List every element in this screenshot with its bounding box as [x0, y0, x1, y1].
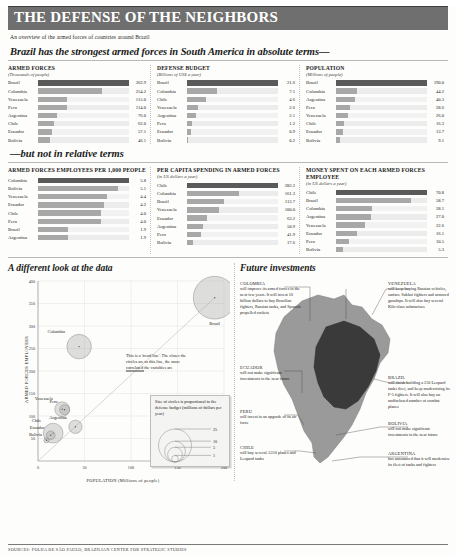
bar-category-label: Chile: [157, 97, 187, 102]
callout-peru: PERU will invest in an upgrade of its ai…: [240, 409, 302, 426]
bars-container: Brazil362.9Colombia254.2Venezuela115.0Pe…: [8, 79, 146, 145]
bar-track: [187, 137, 278, 142]
bar-fill: [336, 88, 357, 93]
x-tick-label: 50: [82, 465, 86, 470]
bar-value-label: 2.6: [278, 105, 295, 110]
bar-fill: [187, 183, 278, 188]
bars-container: Brazil21.6Colombia7.1Chile4.6Venezuela2.…: [157, 79, 295, 145]
bubble-size-legend: Size of circles is proportional to the d…: [150, 395, 230, 467]
bar-fill: [187, 137, 188, 142]
bar-category-label: Colombia: [8, 89, 38, 94]
scatter-point-center: [214, 297, 215, 298]
bar-row: Ecuador4.2: [8, 201, 146, 209]
bar-row: Argentina27.0: [306, 213, 444, 221]
bar-row: Venezuela2.6: [157, 103, 295, 111]
bar-track: [336, 247, 427, 252]
bar-value-label: 2.1: [278, 113, 295, 118]
bar-category-label: Chile: [306, 190, 336, 195]
bar-track: [187, 97, 278, 102]
lower-section: A different look at the data 50100150200…: [8, 263, 448, 481]
bar-row: Peru4.0: [8, 217, 146, 225]
bar-category-label: Chile: [8, 121, 38, 126]
bar-track: [38, 121, 129, 126]
bar-value-label: 62.0: [129, 121, 146, 126]
bar-track: [38, 137, 129, 142]
bar-fill: [336, 113, 348, 118]
bar-track: [38, 186, 129, 191]
bar-track: [336, 97, 427, 102]
bar-row: Ecuador57.1: [8, 128, 146, 136]
bar-track: [336, 80, 427, 85]
bar-row: Colombia254.2: [8, 87, 146, 95]
bar-category-label: Argentina: [157, 224, 187, 229]
bar-fill: [38, 88, 102, 93]
bar-category-label: Ecuador: [8, 129, 38, 134]
bar-value-label: 4.0: [129, 219, 146, 224]
bar-fill: [336, 105, 350, 110]
bar-track: [336, 88, 427, 93]
bar-row: Ecuador0.9: [157, 128, 295, 136]
bar-fill: [38, 219, 101, 224]
chart-title: ARMED FORCES EMPLOYEES PER 1,000 PEOPLE: [8, 167, 146, 174]
bar-value-label: 114.0: [129, 105, 146, 110]
bar-row: Argentina50.9: [157, 222, 295, 230]
bar-value-label: 26.0: [427, 113, 444, 118]
bar-value-label: 50.9: [278, 224, 295, 229]
bar-value-label: 40.3: [427, 97, 444, 102]
bar-fill: [187, 121, 192, 126]
bar-category-label: Peru: [8, 219, 38, 224]
bar-category-label: Bolivia: [8, 138, 38, 143]
bar-value-label: 16.1: [427, 231, 444, 236]
bar-row: Ecuador63.2: [157, 214, 295, 222]
bars-container: Chile282.2Colombia161.3Brazil113.7Venezu…: [157, 181, 295, 247]
bar-track: [336, 137, 427, 142]
bars-container: Chile70.8Brazil58.7Colombia28.1Argentina…: [306, 188, 444, 254]
legend-value-label: 1: [213, 453, 215, 458]
bar-value-label: 5.1: [129, 186, 146, 191]
bar-value-label: 10.5: [427, 239, 444, 244]
bar-track: [187, 207, 278, 212]
bar-row: Argentina76.0: [8, 111, 146, 119]
bar-category-label: Bolivia: [157, 138, 187, 143]
bar-row: Ecuador13.7: [306, 128, 444, 136]
bar-category-label: Venezuela: [306, 223, 336, 228]
bar-track: [38, 80, 129, 85]
bar-fill: [336, 97, 355, 102]
bar-track: [187, 240, 278, 245]
scatter-plot: 50100150200250300350400050100150200Brazi…: [8, 275, 230, 481]
bar-track: [38, 129, 129, 134]
bar-fill: [336, 80, 427, 85]
bar-category-label: Ecuador: [8, 202, 38, 207]
bar-track: [336, 214, 427, 219]
bar-value-label: 5.3: [427, 247, 444, 252]
bar-value-label: 21.6: [278, 80, 295, 85]
legend-title: Size of circles is proportional to the d…: [151, 396, 229, 418]
bar-row: Brazil113.7: [157, 198, 295, 206]
callout-text: will buy several A310 planes and Leopard…: [240, 450, 302, 462]
bar-fill: [187, 215, 207, 220]
callout-ecuador: ECUADOR will not make significant invest…: [240, 365, 302, 382]
bar-fill: [38, 97, 67, 102]
bar-value-label: 161.3: [278, 191, 295, 196]
bar-row: Bolivia0.2: [157, 136, 295, 144]
bar-chart-row-absolute: ARMED FORCES (Thousands of people) Brazi…: [8, 65, 448, 144]
bar-row: Brazil1.9: [8, 225, 146, 233]
bar-row: Brazil362.9: [8, 79, 146, 87]
bar-track: [187, 121, 278, 126]
bar-fill: [336, 247, 343, 252]
bar-fill: [38, 210, 101, 215]
callout-text: will not make significant investments in…: [240, 370, 302, 382]
bar-fill: [187, 88, 217, 93]
chart-defense-budget: DEFENSE BUDGET (Billions of US$ a year) …: [157, 65, 300, 144]
bar-value-label: 7.1: [278, 89, 295, 94]
bar-category-label: Peru: [157, 232, 187, 237]
bar-chart-row-relative: ARMED FORCES EMPLOYEES PER 1,000 PEOPLE …: [8, 167, 448, 253]
chart-unit: (Thousands of people): [8, 72, 146, 77]
divider-lower: [8, 257, 448, 258]
callout-text: has announced that it will modernize its…: [388, 456, 450, 468]
bar-fill: [187, 129, 191, 134]
bar-track: [336, 231, 427, 236]
bar-row: Brazil58.7: [306, 196, 444, 204]
divider-top: [8, 60, 448, 61]
bar-fill: [187, 240, 193, 245]
